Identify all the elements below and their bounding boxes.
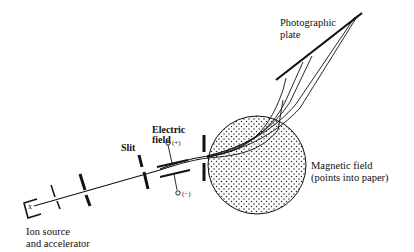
- slit-1: [51, 185, 60, 209]
- source-marker: x: [28, 202, 32, 211]
- magnetic-field-label: Magnetic field: [311, 160, 373, 171]
- plus-terminal-label: (+): [172, 139, 181, 147]
- ion-beam: [34, 156, 208, 206]
- ion-source-icon: [24, 199, 41, 218]
- photographic-plate-label: Photographic: [280, 17, 336, 28]
- photographic-plate-label-2: plate: [280, 29, 301, 40]
- magnetic-field-label-2: (points into paper): [311, 172, 389, 184]
- electric-field-label-2: field: [152, 134, 171, 145]
- ion-source-label-2: and accelerator: [26, 238, 90, 249]
- slit-label: Slit: [121, 142, 136, 153]
- electric-field-wires: [166, 141, 180, 195]
- magnetic-field-region: [208, 116, 306, 214]
- slit-3: [139, 155, 148, 189]
- mass-spectrometer-diagram: x: [0, 0, 414, 252]
- minus-terminal-label: (−): [182, 190, 191, 198]
- ion-source-label: Ion source: [26, 226, 70, 237]
